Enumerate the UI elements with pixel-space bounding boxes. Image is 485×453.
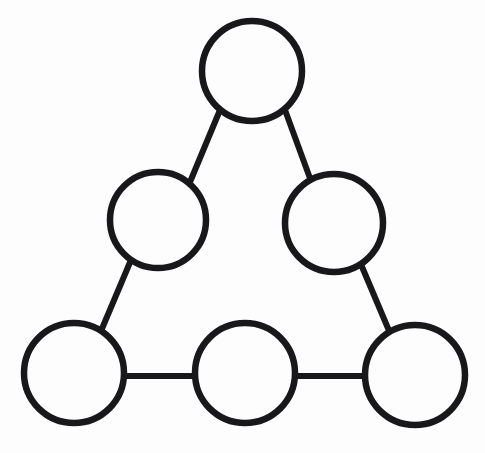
edges-group bbox=[101, 110, 390, 376]
node-circle-bottom-left[interactable] bbox=[24, 323, 124, 423]
node-circle-mid-left[interactable] bbox=[110, 172, 206, 268]
node-circle-bottom-mid[interactable] bbox=[195, 323, 295, 423]
edge-top-to-mid-right bbox=[285, 110, 311, 181]
edge-top-to-mid-left bbox=[190, 110, 220, 182]
node-circle-bottom-right[interactable] bbox=[365, 325, 465, 425]
edge-mid-right-to-bottom-right bbox=[360, 262, 390, 333]
nodes-group bbox=[24, 21, 465, 425]
node-circle-top[interactable] bbox=[202, 21, 302, 121]
diagram-svg bbox=[0, 0, 485, 453]
edge-mid-left-to-bottom-left bbox=[101, 260, 131, 331]
node-circle-mid-right[interactable] bbox=[285, 174, 383, 272]
diagram-canvas bbox=[0, 0, 485, 453]
